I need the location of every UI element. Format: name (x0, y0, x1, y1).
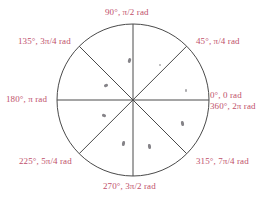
unit-circle-diagram: 90°, π/2 rad 45°, π/4 rad 135°, 3π/4 rad… (0, 0, 279, 207)
scan-artifact (148, 144, 152, 149)
scan-artifact (185, 89, 187, 92)
angle-label-45: 45°, π/4 rad (196, 36, 240, 47)
angle-label-225: 225°, 5π/4 rad (19, 156, 72, 167)
angle-label-135: 135°, 3π/4 rad (18, 36, 71, 47)
scan-artifact (181, 121, 185, 126)
angle-label-180: 180°, π rad (6, 94, 47, 105)
angle-label-270: 270°, 3π/2 rad (103, 181, 156, 192)
angle-label-360: 360°, 2π rad (210, 101, 256, 112)
angle-label-90: 90°, π/2 rad (105, 7, 149, 18)
angle-label-0: 0°, 0 rad (210, 90, 242, 101)
scan-artifact (159, 64, 161, 66)
angle-label-315: 315°, 7π/4 rad (196, 156, 249, 167)
